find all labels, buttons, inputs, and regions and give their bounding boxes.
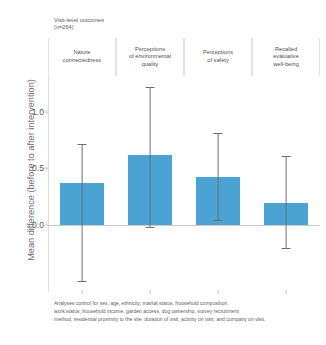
plot-area: Nature connectednessPerceptions of envir…	[48, 38, 320, 292]
y-axis-line	[48, 76, 49, 292]
column-header-2: Perceptions of environmental quality	[116, 38, 184, 76]
x-tick-1	[82, 290, 83, 294]
error-cap-4-high	[282, 156, 291, 157]
chart-title-line2: (n=264)	[54, 24, 74, 30]
chart-title-line1: Visit-level outcomes	[54, 17, 104, 23]
footnote-line-2: work status, household income, garden ac…	[54, 307, 316, 315]
error-bar-3	[218, 133, 219, 220]
column-header-band: Nature connectednessPerceptions of envir…	[48, 38, 320, 76]
footnote-line-1: Analyses control for sex, age, ethnicity…	[54, 299, 316, 307]
x-tick-2	[150, 290, 151, 294]
error-cap-1-high	[78, 144, 87, 145]
error-cap-2-high	[146, 87, 155, 88]
error-cap-3-high	[214, 133, 223, 134]
y-tick-label-0: 0.0	[32, 220, 44, 230]
error-cap-3-low	[214, 220, 223, 221]
column-header-1: Nature connectedness	[48, 38, 116, 76]
y-tick-label-1: 0.5	[32, 163, 44, 173]
error-bar-2	[150, 87, 151, 227]
error-cap-2-low	[146, 227, 155, 228]
error-bar-1	[82, 144, 83, 281]
x-tick-3	[218, 290, 219, 294]
chart-figure: Visit-level outcomes(n=264) Mean differe…	[0, 0, 326, 345]
error-cap-1-low	[78, 281, 87, 282]
footnote-line-3: method, residential proximity to the sit…	[54, 315, 316, 323]
chart-footnote: Analyses control for sex, age, ethnicity…	[54, 299, 316, 323]
column-header-4: Recalled evaluative well-being	[252, 38, 320, 76]
error-cap-4-low	[282, 248, 291, 249]
y-tick-mark-2	[45, 112, 49, 113]
y-tick-mark-1	[45, 168, 49, 169]
chart-title: Visit-level outcomes(n=264)	[54, 17, 104, 31]
x-axis-baseline	[48, 225, 320, 226]
y-tick-label-2: 1.0	[32, 107, 44, 117]
column-header-3: Perceptions of safety	[184, 38, 252, 76]
error-bar-4	[286, 156, 287, 248]
x-tick-4	[286, 290, 287, 294]
